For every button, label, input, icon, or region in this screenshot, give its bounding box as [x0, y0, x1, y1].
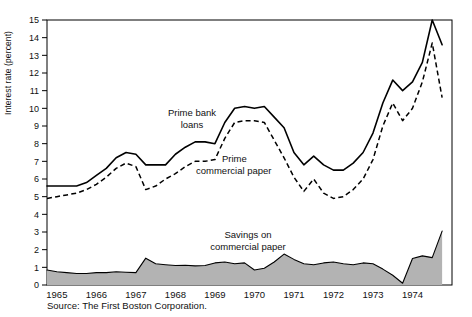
y-axis-ticks [42, 20, 47, 285]
y-axis-title: Interest rate (percent) [3, 0, 13, 115]
x-tick-label: 1970 [244, 289, 265, 300]
source-note: Source: The First Boston Corporation. [47, 300, 207, 311]
interest-rate-chart: 0123456789101112131415 19651966196719681… [0, 0, 472, 317]
chart-figure: 0123456789101112131415 19651966196719681… [0, 0, 472, 317]
y-tick-label: 1 [34, 263, 39, 273]
x-tick-label: 1971 [283, 289, 304, 300]
prime-commercial-paper-label-line1: Prime [222, 153, 247, 164]
x-tick-label: 1965 [46, 289, 67, 300]
y-tick-label: 6 [34, 174, 39, 184]
x-tick-label: 1967 [125, 289, 146, 300]
x-tick-label: 1972 [323, 289, 344, 300]
y-tick-label: 2 [34, 245, 39, 255]
x-tick-label: 1969 [204, 289, 225, 300]
y-tick-label: 4 [34, 210, 39, 220]
y-tick-label: 11 [30, 86, 39, 96]
savings-on-commercial-paper-label-line2: commercial paper [210, 241, 286, 252]
y-tick-label: 13 [29, 51, 39, 61]
x-tick-label: 1974 [402, 289, 423, 300]
y-tick-label: 15 [29, 15, 39, 25]
prime-bank-loans-label-line2: loans [181, 119, 204, 130]
prime-bank-loans-label-line1: Prime bank [168, 107, 216, 118]
y-tick-label: 10 [29, 104, 39, 114]
y-tick-label: 5 [34, 192, 39, 202]
x-tick-label: 1968 [165, 289, 186, 300]
y-tick-label: 14 [29, 33, 39, 43]
prime-commercial-paper-label-line2: commercial paper [196, 165, 272, 176]
x-axis-tick-labels: 1965196619671968196919701971197219731974 [46, 289, 423, 300]
x-tick-label: 1973 [362, 289, 383, 300]
y-tick-label: 7 [34, 157, 39, 167]
y-tick-label: 0 [34, 280, 39, 290]
x-tick-label: 1966 [86, 289, 107, 300]
y-tick-label: 9 [34, 121, 39, 131]
y-tick-label: 8 [34, 139, 39, 149]
y-axis-tick-labels: 0123456789101112131415 [29, 15, 39, 290]
savings-on-commercial-paper-label-line1: Savings on [224, 229, 271, 240]
y-tick-label: 12 [29, 68, 39, 78]
y-tick-label: 3 [34, 227, 39, 237]
